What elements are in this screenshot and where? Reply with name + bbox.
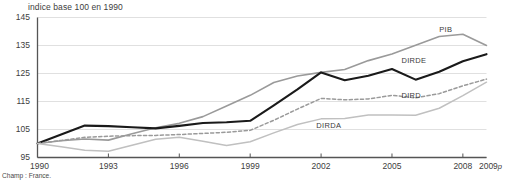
y-tick-label: 115 [4,96,30,106]
provisional-marker: p [498,162,502,171]
x-tick-label: 2005 [372,161,412,171]
x-tick-label: 2002 [301,161,341,171]
x-tick-label: 1999 [230,161,270,171]
chart-title: indice base 100 en 1990 [28,2,123,12]
chart-footnote: Champ : France. [2,172,51,179]
series-label-dirde: DIRDE [401,56,426,65]
series-line-pib [38,34,487,143]
series-label-dird: DIRD [401,91,421,100]
x-tick-label: 1996 [159,161,199,171]
y-tick-label: 105 [4,124,30,134]
x-tick-label: 1993 [88,161,128,171]
y-tick-label: 145 [4,12,30,22]
series-label-pib: PIB [439,25,452,34]
x-tick-label: 1990 [20,161,60,171]
y-tick-label: 135 [4,40,30,50]
series-label-dirda: DIRDA [316,121,341,130]
y-tick-label: 125 [4,68,30,78]
x-tick-label: 2009p [471,161,507,171]
